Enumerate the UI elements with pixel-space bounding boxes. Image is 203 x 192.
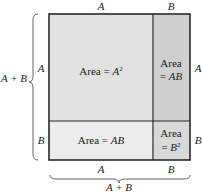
area-ab-right-line2: = AB [160,70,183,82]
area-square-diagram: A B A B A B A + B A B A + B Area = A2 Ar… [0,0,203,192]
left-label-b: B [38,134,45,146]
bottom-label-b: B [168,163,175,175]
area-a-squared-label: Area = A2 [79,65,123,77]
bottom-total-label: A + B [105,181,132,192]
area-ab-right-line1: Area [160,57,181,69]
area-b-squared-line1: Area [160,127,181,139]
area-ab-bottom-label: Area = AB [78,134,125,146]
right-label-b: B [195,134,202,146]
left-label-a: A [37,62,45,74]
left-total-label: A + B [0,72,27,84]
bottom-label-a: A [97,163,105,175]
right-label-a: A [194,62,202,74]
top-label-a: A [97,0,105,12]
top-label-b: B [168,0,175,12]
